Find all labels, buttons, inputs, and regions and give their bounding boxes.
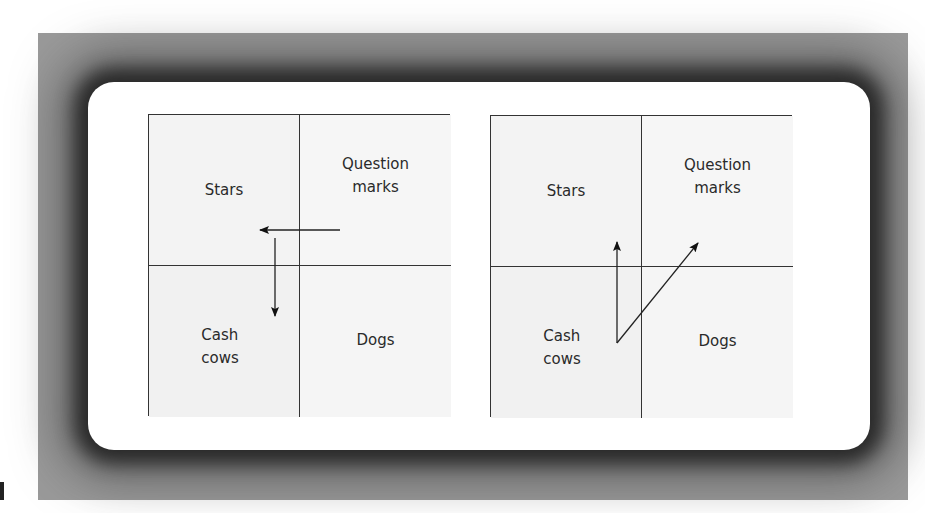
right-bcg-matrix: Stars Question marks Cash cows Dogs [490, 115, 792, 417]
quadrant-stars: Stars [149, 115, 300, 266]
quadrant-label: Stars [205, 179, 244, 202]
quadrant-label: Dogs [356, 329, 394, 352]
edge-mark [0, 482, 4, 500]
quadrant-question-marks: Question marks [300, 115, 451, 266]
quadrant-label: Dogs [698, 330, 736, 353]
quadrant-label: Cash cows [543, 325, 581, 371]
left-bcg-matrix: Stars Question marks Cash cows Dogs [148, 114, 450, 416]
quadrant-dogs: Dogs [642, 267, 793, 418]
quadrant-dogs: Dogs [300, 266, 451, 417]
quadrant-cash-cows: Cash cows [491, 267, 642, 418]
quadrant-label: Cash cows [201, 324, 239, 370]
quadrant-cash-cows: Cash cows [149, 266, 300, 417]
quadrant-label: Stars [547, 180, 586, 203]
quadrant-label: Question marks [684, 154, 751, 200]
quadrant-stars: Stars [491, 116, 642, 267]
quadrant-label: Question marks [342, 153, 409, 199]
quadrant-question-marks: Question marks [642, 116, 793, 267]
